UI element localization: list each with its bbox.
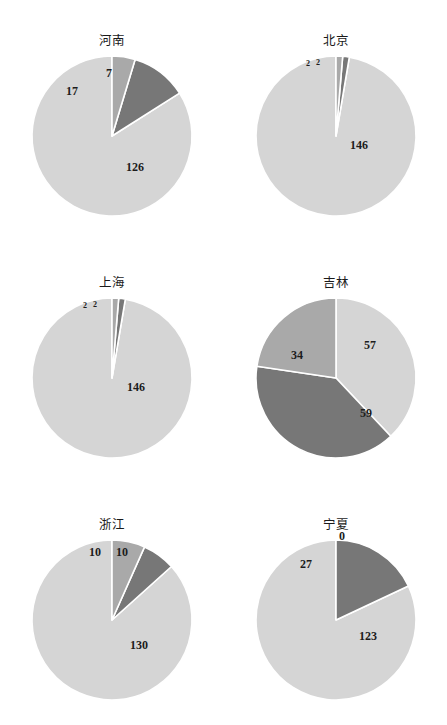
pie-chart-cell: 宁夏123270	[223, 484, 447, 725]
pie-title: 上海	[99, 275, 125, 290]
pie-svg: 河南126177	[0, 0, 223, 242]
pie-slice-value-label: 123	[359, 629, 377, 643]
pie-slices	[32, 298, 192, 458]
pie-title: 浙江	[99, 517, 125, 532]
pie-slice-value-label: 126	[126, 160, 144, 174]
pie-chart-cell: 北京14622	[223, 0, 447, 242]
pie-slice-value-label: 59	[360, 406, 372, 420]
pie-chart-grid: 河南126177北京14622上海14622吉林575934浙江1301010宁…	[0, 0, 447, 725]
pie-chart-cell: 上海14622	[0, 242, 223, 484]
pie-title: 吉林	[323, 275, 349, 290]
pie-title: 河南	[99, 33, 125, 48]
pie-slices	[32, 56, 192, 216]
pie-svg: 吉林575934	[223, 242, 447, 484]
pie-slice-value-label: 130	[130, 638, 148, 652]
pie-slice-value-label: 57	[364, 338, 376, 352]
pie-slice-value-label: 27	[300, 557, 312, 571]
pie-svg: 浙江1301010	[0, 484, 223, 725]
pie-svg: 宁夏123270	[223, 484, 447, 725]
pie-slices	[256, 540, 416, 700]
pie-slice-value-label: 7	[106, 66, 112, 80]
pie-slice-value-label: 146	[127, 380, 145, 394]
pie-slice-value-label: 10	[116, 545, 128, 559]
pie-slices	[32, 540, 192, 700]
pie-chart-cell: 河南126177	[0, 0, 223, 242]
pie-slice-value-label: 2	[83, 301, 87, 310]
pie-slices	[256, 56, 416, 216]
pie-slice-value-label: 10	[89, 545, 101, 559]
pie-title: 宁夏	[323, 517, 349, 532]
pie-title: 北京	[323, 33, 349, 48]
pie-chart-cell: 浙江1301010	[0, 484, 223, 725]
pie-slice-value-label: 146	[350, 138, 368, 152]
pie-slice-value-label: 34	[291, 348, 303, 362]
pie-svg: 上海14622	[0, 242, 223, 484]
pie-slices	[256, 298, 416, 458]
pie-slice-value-label: 0	[339, 529, 345, 543]
pie-slice-value-label: 17	[66, 84, 78, 98]
pie-slice-value-label: 2	[306, 59, 310, 68]
pie-slice-value-label: 2	[93, 300, 97, 309]
pie-svg: 北京14622	[223, 0, 447, 242]
pie-slice	[257, 298, 336, 378]
pie-slice-value-label: 2	[316, 58, 320, 67]
pie-chart-cell: 吉林575934	[223, 242, 447, 484]
